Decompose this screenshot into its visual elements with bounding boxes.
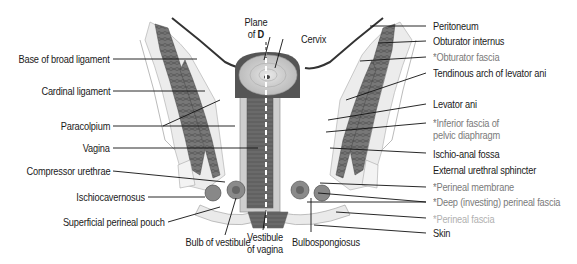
label-perineal-membrane: *Perineal membrane: [433, 181, 514, 193]
label-ischiocavernosus: Ischiocavernosus: [76, 191, 145, 203]
label-ischio-anal-fossa: Ischio-anal fossa: [433, 148, 499, 160]
vagina: [240, 92, 280, 212]
label-obturator-fascia: *Obturator fascia: [433, 51, 499, 63]
label-peritoneum: Peritoneum: [433, 20, 478, 32]
label-perineal-fascia: *Perineal fascia: [433, 213, 494, 225]
label-bulbospongiosus: Bulbospongiosus: [291, 236, 361, 248]
label-base-of-broad-ligament: Base of broad ligament: [19, 53, 110, 65]
label-levator-ani: Levator ani: [433, 98, 477, 110]
label-inferior-fascia: *Inferior fascia of pelvic diaphragm: [433, 117, 500, 141]
label-obturator-internus: Obturator internus: [433, 35, 504, 47]
label-superficial-perineal-pouch: Superficial perineal pouch: [63, 216, 165, 228]
label-vagina: Vagina: [83, 142, 110, 154]
label-skin: Skin: [433, 227, 450, 239]
label-compressor-urethrae: Compressor urethrae: [26, 165, 110, 177]
label-deep-perineal-fascia: *Deep (investing) perineal fascia: [433, 196, 560, 208]
plane-line2: of D: [238, 28, 273, 40]
label-paracolpium: Paracolpium: [61, 120, 110, 132]
label-external-urethral-sphincter: External urethral sphincter: [433, 164, 536, 176]
label-cervix: Cervix: [301, 33, 326, 45]
label-tendinous-arch: Tendinous arch of levator ani: [433, 67, 546, 79]
left-pelvic-wall: [140, 18, 250, 190]
label-cardinal-ligament: Cardinal ligament: [41, 85, 110, 97]
label-plane-of-d: Plane of D: [238, 16, 273, 40]
cervix: [235, 52, 300, 98]
label-vestibule-of-vagina: Vestibule of vagina: [243, 231, 287, 255]
anatomy-diagram: Plane of D Cervix Base of broad ligament…: [0, 0, 577, 264]
plane-line1: Plane: [238, 16, 273, 28]
